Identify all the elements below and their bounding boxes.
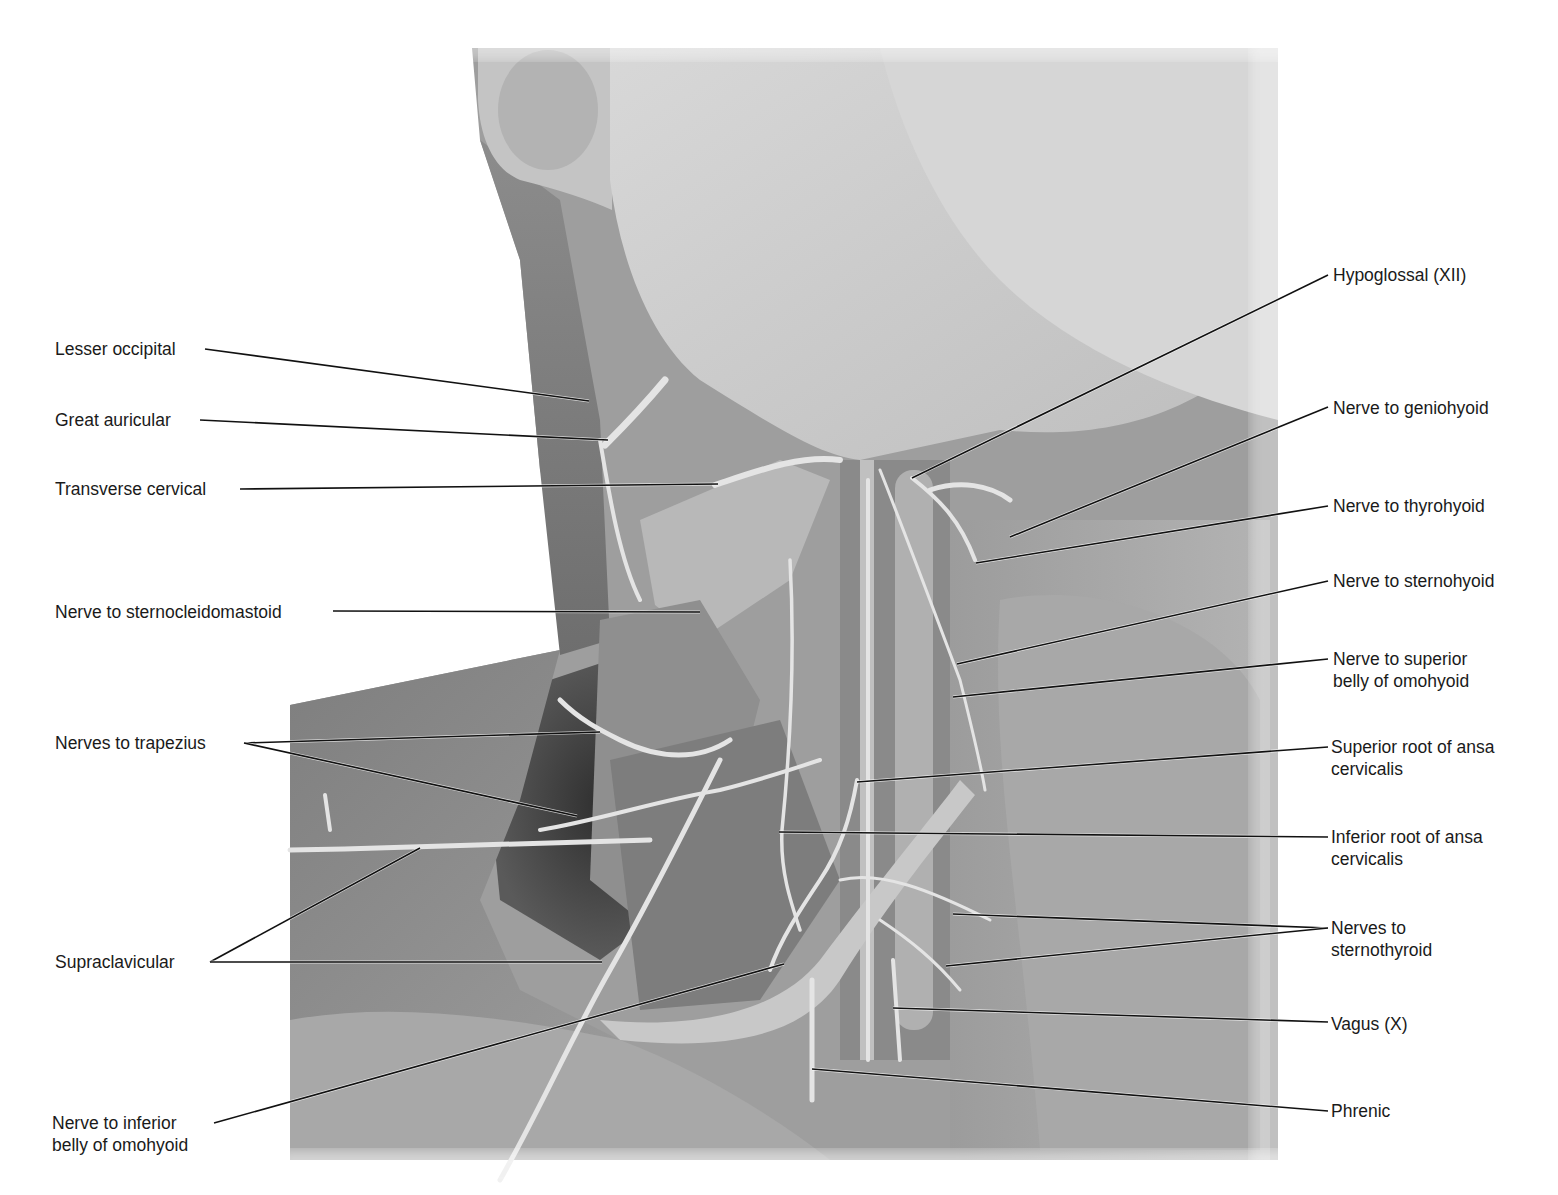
label-nerve-to-sternocleidomastoid: Nerve to sternocleidomastoid	[55, 601, 282, 623]
label-line-2: belly of omohyoid	[52, 1134, 188, 1156]
label-line-1: Inferior root of ansa	[1331, 826, 1483, 848]
label-line-2: sternothyroid	[1331, 939, 1432, 961]
label-line-2: cervicalis	[1331, 848, 1483, 870]
label-nerve-to-sternohyoid: Nerve to sternohyoid	[1333, 570, 1494, 592]
label-superior-root-of-ansa-cervicalis: Superior root of ansa cervicalis	[1331, 736, 1494, 780]
dissection-photograph	[0, 0, 1558, 1195]
label-nerve-to-inferior-belly-of-omohyoid: Nerve to inferior belly of omohyoid	[52, 1112, 188, 1156]
label-line-2: belly of omohyoid	[1333, 670, 1469, 692]
label-vagus: Vagus (X)	[1331, 1013, 1408, 1035]
label-nerves-to-trapezius: Nerves to trapezius	[55, 732, 206, 754]
label-nerve-to-thyrohyoid: Nerve to thyrohyoid	[1333, 495, 1485, 517]
label-line-1: Nerve to superior	[1333, 648, 1469, 670]
label-inferior-root-of-ansa-cervicalis: Inferior root of ansa cervicalis	[1331, 826, 1483, 870]
anatomy-figure: Lesser occipital Great auricular Transve…	[0, 0, 1558, 1195]
label-nerves-to-sternothyroid: Nerves to sternothyroid	[1331, 917, 1432, 961]
label-line-1: Nerve to inferior	[52, 1112, 188, 1134]
label-line-1: Nerves to	[1331, 917, 1432, 939]
label-nerve-to-superior-belly-of-omohyoid: Nerve to superior belly of omohyoid	[1333, 648, 1469, 692]
label-great-auricular: Great auricular	[55, 409, 171, 431]
label-lesser-occipital: Lesser occipital	[55, 338, 176, 360]
label-phrenic: Phrenic	[1331, 1100, 1390, 1122]
label-line-2: cervicalis	[1331, 758, 1494, 780]
label-hypoglossal: Hypoglossal (XII)	[1333, 264, 1466, 286]
label-line-1: Superior root of ansa	[1331, 736, 1494, 758]
label-supraclavicular: Supraclavicular	[55, 951, 175, 973]
label-transverse-cervical: Transverse cervical	[55, 478, 206, 500]
label-nerve-to-geniohyoid: Nerve to geniohyoid	[1333, 397, 1489, 419]
